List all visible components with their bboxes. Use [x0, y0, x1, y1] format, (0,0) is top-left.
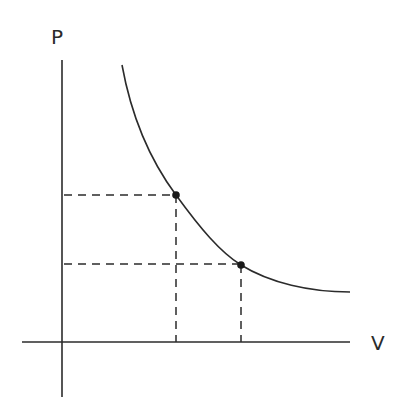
guide-lines [64, 195, 241, 342]
x-axis-label: V [371, 331, 385, 355]
isotherm-curve [122, 65, 350, 292]
y-axis-label: P [51, 25, 63, 49]
point-2 [237, 261, 245, 269]
pv-diagram: P V [0, 0, 410, 410]
point-1 [172, 191, 180, 199]
